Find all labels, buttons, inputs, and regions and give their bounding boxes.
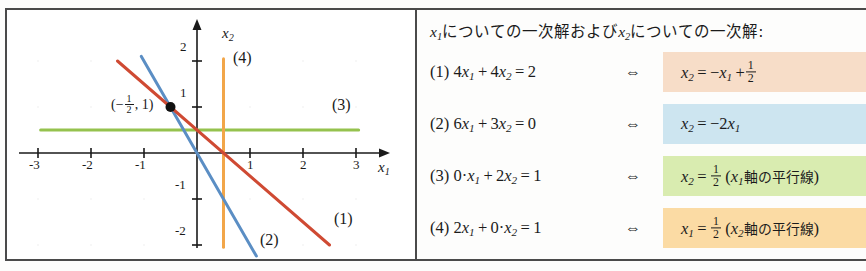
equations-header: x1についての一次解およびx2についての一次解:: [430, 19, 764, 42]
chart-panel: x2 x1 -3 -2 -1 1 2 3 2 1 -1 -2 (1) (2) (…: [5, 8, 417, 261]
iff-symbol-2: ⇔: [625, 115, 641, 133]
series-label-1: (1): [334, 211, 353, 227]
equation-row-2: (2) 6x1 + 3x2 = 0 ⇔ x2 = −2x1: [425, 104, 866, 144]
equation-row-4: (4) 2x1 + 0·x2 = 1 ⇔ x1 = 12 (x2軸の平行線): [425, 208, 866, 248]
y-tick-2: 2: [180, 40, 187, 53]
equation-row-1: (1) 4x1 + 4x2 = 2 ⇔ x2 = −x1 +12: [425, 52, 866, 92]
series-label-4: (4): [233, 50, 252, 66]
series-label-2: (2): [260, 232, 279, 248]
solution-band-3: x2 = 12 (x1軸の平行線): [663, 156, 866, 196]
solution-band-1: x2 = −x1 +12: [663, 52, 866, 92]
coordinate-plot: [7, 10, 415, 259]
equation-2-lhs: (2) 6x1 + 3x2 = 0: [430, 114, 536, 134]
y-tick-1: 1: [180, 86, 187, 99]
equation-3-rhs: x2 = 12 (x1軸の平行線): [681, 163, 819, 188]
iff-symbol-3: ⇔: [625, 167, 641, 185]
iff-symbol-1: ⇔: [625, 63, 641, 81]
x-tick-minus1: -1: [135, 158, 146, 171]
y-axis-label: x2: [222, 26, 234, 43]
solution-band-2: x2 = −2x1: [663, 104, 866, 144]
x-axis-label: x1: [378, 160, 390, 177]
x-tick-minus2: -2: [82, 158, 93, 171]
y-tick-minus1: -1: [175, 178, 186, 191]
equation-4-lhs: (4) 2x1 + 0·x2 = 1: [430, 218, 541, 238]
figure-page: x2 x1 -3 -2 -1 1 2 3 2 1 -1 -2 (1) (2) (…: [0, 0, 866, 271]
equation-4-rhs: x1 = 12 (x2軸の平行線): [681, 215, 819, 240]
equation-row-3: (3) 0·x1 + 2x2 = 1 ⇔ x2 = 12 (x1軸の平行線): [425, 156, 866, 196]
y-tick-minus2: -2: [175, 224, 186, 237]
x-tick-minus3: -3: [29, 158, 40, 171]
solution-band-4: x1 = 12 (x2軸の平行線): [663, 208, 866, 248]
series-label-3: (3): [332, 97, 351, 113]
equation-1-rhs: x2 = −x1 +12: [681, 59, 757, 84]
iff-symbol-4: ⇔: [625, 219, 641, 237]
x-tick-2: 2: [300, 158, 307, 171]
equation-1-lhs: (1) 4x1 + 4x2 = 2: [430, 62, 536, 82]
x-tick-1: 1: [247, 158, 254, 171]
intersection-point-label: (−12, 1): [111, 94, 153, 116]
equation-2-rhs: x2 = −2x1: [681, 114, 740, 134]
equations-panel: x1についての一次解およびx2についての一次解: (1) 4x1 + 4x2 =…: [425, 10, 866, 259]
x-tick-3: 3: [353, 158, 360, 171]
equation-3-lhs: (3) 0·x1 + 2x2 = 1: [430, 166, 541, 186]
